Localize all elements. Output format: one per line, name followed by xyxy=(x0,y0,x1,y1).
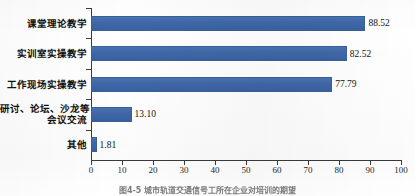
x-axis-label: 40 xyxy=(200,165,230,175)
bar-4 xyxy=(91,137,97,152)
bar-2 xyxy=(91,77,332,92)
x-axis-label: 80 xyxy=(324,165,354,175)
category-label-line: 其他 xyxy=(0,139,87,150)
x-axis-label: 50 xyxy=(231,165,261,175)
bar-value-label: 77.79 xyxy=(335,79,356,89)
y-axis-tick xyxy=(86,8,91,9)
bar-3 xyxy=(91,107,132,122)
category-label-line: 会议交流 xyxy=(0,114,87,125)
category-label-4: 其他 xyxy=(0,139,87,150)
category-label-2: 工作现场实操教学 xyxy=(0,79,87,90)
x-axis-label: 10 xyxy=(107,165,137,175)
figure-container: 88.5282.5277.7913.101.81 课堂理论教学实训室实操教学工作… xyxy=(0,0,415,196)
x-axis-label: 100 xyxy=(386,165,415,175)
category-label-line: 课堂理论教学 xyxy=(0,18,87,29)
bar-1 xyxy=(91,46,347,61)
category-label-line: 研讨、论坛、沙龙等 xyxy=(0,103,87,114)
y-axis-tick xyxy=(86,38,91,39)
category-label-0: 课堂理论教学 xyxy=(0,18,87,29)
category-label-line: 实训室实操教学 xyxy=(0,48,87,59)
bar-value-label: 88.52 xyxy=(368,18,389,28)
figure-caption: 图4-5 城市轨道交通信号工所在企业对培训的期望 xyxy=(0,186,415,196)
bar-0 xyxy=(91,16,365,31)
y-axis-tick xyxy=(86,69,91,70)
x-axis-label: 20 xyxy=(138,165,168,175)
y-axis-tick xyxy=(86,130,91,131)
bar-value-label: 1.81 xyxy=(100,140,117,150)
category-label-line: 工作现场实操教学 xyxy=(0,79,87,90)
category-label-1: 实训室实操教学 xyxy=(0,48,87,59)
x-axis-label: 90 xyxy=(355,165,385,175)
bar-value-label: 13.10 xyxy=(135,109,156,119)
x-axis-label: 30 xyxy=(169,165,199,175)
category-label-3: 研讨、论坛、沙龙等会议交流 xyxy=(0,103,87,125)
bar-value-label: 82.52 xyxy=(350,49,371,59)
x-axis-label: 60 xyxy=(262,165,292,175)
x-axis-label: 70 xyxy=(293,165,323,175)
y-axis-tick xyxy=(86,99,91,100)
x-axis-label: 0 xyxy=(76,165,106,175)
